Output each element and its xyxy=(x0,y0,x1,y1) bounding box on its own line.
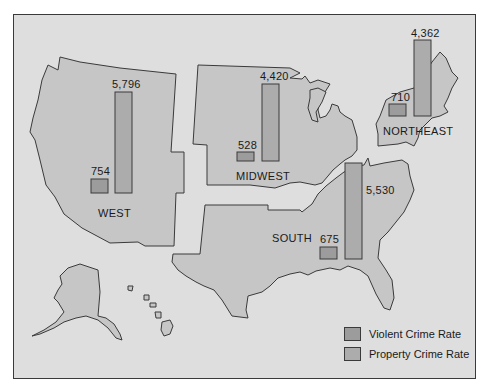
south-violent-bar xyxy=(320,247,337,259)
midwest-region-label: MIDWEST xyxy=(236,170,290,182)
south-region-label: SOUTH xyxy=(272,232,312,244)
northeast-region-label: NORTHEAST xyxy=(383,125,453,137)
region-hawaii-oahu xyxy=(144,295,149,300)
violent-swatch xyxy=(344,327,361,341)
legend-violent: Violent Crime Rate xyxy=(344,327,461,341)
south-property-bar xyxy=(345,163,362,259)
midwest-violent-value: 528 xyxy=(238,139,257,151)
region-hawaii-kauai xyxy=(128,286,133,291)
west-property-value: 5,796 xyxy=(112,78,141,90)
midwest-property-value: 4,420 xyxy=(260,70,289,82)
legend-violent-label: Violent Crime Rate xyxy=(369,328,461,340)
northeast-violent-value: 710 xyxy=(391,91,410,103)
northeast-property-value: 4,362 xyxy=(411,27,440,39)
region-alaska xyxy=(32,264,122,340)
region-hawaii-big xyxy=(161,320,173,336)
south-property-value: 5,530 xyxy=(366,184,395,196)
midwest-property-bar xyxy=(262,84,279,161)
property-swatch xyxy=(344,347,361,361)
west-region-label: WEST xyxy=(98,207,131,219)
south-violent-value: 675 xyxy=(320,233,339,245)
west-property-bar xyxy=(115,92,132,193)
west-violent-value: 754 xyxy=(91,165,110,177)
legend-property-label: Property Crime Rate xyxy=(369,348,469,360)
region-hawaii-molokai xyxy=(150,303,156,307)
northeast-property-bar xyxy=(414,40,431,116)
northeast-violent-bar xyxy=(389,104,406,116)
legend-property: Property Crime Rate xyxy=(344,347,469,361)
west-violent-bar xyxy=(91,179,108,193)
midwest-violent-bar xyxy=(237,152,254,161)
region-hawaii-maui xyxy=(155,312,161,318)
